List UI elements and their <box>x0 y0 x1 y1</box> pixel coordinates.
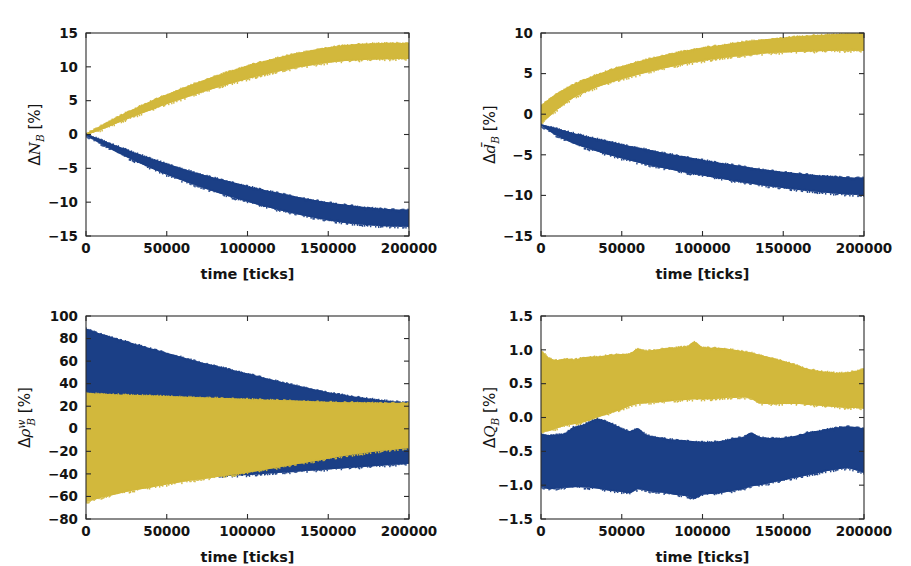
y-axis-title: ΔNB [%] <box>26 104 46 166</box>
y-tick-label: −1.0 <box>498 477 533 493</box>
y-tick-label: 0 <box>69 126 78 142</box>
subplot-top-right: 0500001000001500002000001050−5−10−15time… <box>455 0 911 283</box>
y-tick-label: −0.5 <box>498 443 533 459</box>
y-tick-label: 60 <box>59 353 78 369</box>
subplot-top-left: 050000100000150000200000151050−5−10−15ti… <box>0 0 456 283</box>
plot-svg: 0500001000001500002000001.51.00.50.0−0.5… <box>455 283 911 566</box>
y-tick-label: −80 <box>48 511 78 527</box>
y-axis-title: ΔQB [%] <box>481 387 501 448</box>
figure-canvas: 050000100000150000200000151050−5−10−15ti… <box>0 0 911 566</box>
x-tick-label: 100000 <box>674 523 730 539</box>
x-tick-label: 100000 <box>219 523 275 539</box>
y-tick-label: 0 <box>69 420 78 436</box>
x-tick-label: 0 <box>81 240 90 256</box>
y-tick-label: 0.0 <box>509 409 533 425</box>
series-yellow-band <box>86 393 409 502</box>
y-tick-label: −20 <box>48 443 78 459</box>
y-tick-label: 100 <box>50 308 78 324</box>
x-tick-label: 200000 <box>381 240 437 256</box>
series-blue-band <box>541 419 864 499</box>
y-tick-label: 20 <box>59 398 78 414</box>
x-tick-label: 150000 <box>755 523 811 539</box>
x-axis-title: time [ticks] <box>656 549 750 565</box>
y-tick-label: 1.5 <box>509 308 533 324</box>
y-tick-label: −40 <box>48 466 78 482</box>
x-tick-label: 50000 <box>598 523 645 539</box>
x-tick-label: 100000 <box>219 240 275 256</box>
y-axis-title: ΔρwB [%] <box>15 387 37 448</box>
x-axis-title: time [ticks] <box>656 266 750 282</box>
y-tick-label: 5 <box>69 92 78 108</box>
x-tick-label: 0 <box>536 523 545 539</box>
axes-frame <box>86 33 409 236</box>
y-tick-label: 10 <box>514 25 533 41</box>
y-tick-label: 0 <box>524 106 533 122</box>
series-yellow-band <box>86 43 409 135</box>
y-tick-label: 0.5 <box>509 375 533 391</box>
y-tick-label: 1.0 <box>509 342 533 358</box>
plot-area <box>540 341 864 500</box>
plot-area <box>85 42 409 229</box>
y-tick-label: −10 <box>503 187 533 203</box>
x-tick-label: 150000 <box>755 240 811 256</box>
x-tick-label: 150000 <box>300 523 356 539</box>
x-tick-label: 200000 <box>836 240 892 256</box>
y-tick-label: −5 <box>512 147 533 163</box>
y-tick-label: −1.5 <box>498 511 533 527</box>
subplot-bottom-left: 050000100000150000200000100806040200−20−… <box>0 283 456 566</box>
x-axis-title: time [ticks] <box>201 549 295 565</box>
subplot-bottom-right: 0500001000001500002000001.51.00.50.0−0.5… <box>455 283 911 566</box>
x-axis-title: time [ticks] <box>201 266 295 282</box>
series-yellow-band <box>541 342 864 433</box>
plot-area <box>540 32 864 197</box>
plot-area <box>85 327 409 503</box>
x-tick-label: 0 <box>536 240 545 256</box>
series-blue-band <box>86 134 409 227</box>
y-tick-label: −10 <box>48 194 78 210</box>
y-tick-label: 5 <box>524 65 533 81</box>
y-axis-title: Δd̄B [%] <box>481 105 501 163</box>
x-tick-label: 50000 <box>143 240 190 256</box>
x-tick-label: 50000 <box>598 240 645 256</box>
plot-svg: 050000100000150000200000100806040200−20−… <box>0 283 456 566</box>
x-tick-label: 100000 <box>674 240 730 256</box>
x-tick-label: 200000 <box>836 523 892 539</box>
y-tick-label: −15 <box>48 228 78 244</box>
plot-svg: 0500001000001500002000001050−5−10−15time… <box>455 0 911 283</box>
y-tick-label: −5 <box>57 160 78 176</box>
x-tick-label: 150000 <box>300 240 356 256</box>
y-tick-label: 15 <box>59 25 78 41</box>
y-tick-label: −60 <box>48 488 78 504</box>
x-tick-label: 0 <box>81 523 90 539</box>
y-tick-label: 80 <box>59 330 78 346</box>
y-tick-label: 40 <box>59 375 78 391</box>
plot-svg: 050000100000150000200000151050−5−10−15ti… <box>0 0 456 283</box>
axes-frame <box>541 33 864 236</box>
x-tick-label: 200000 <box>381 523 437 539</box>
y-tick-label: 10 <box>59 59 78 75</box>
x-tick-label: 50000 <box>143 523 190 539</box>
y-tick-label: −15 <box>503 228 533 244</box>
